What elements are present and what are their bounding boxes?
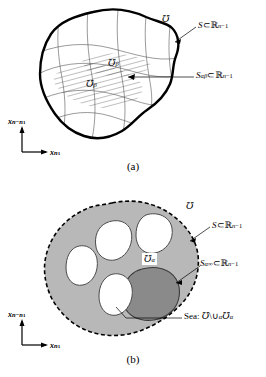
label-patch-U-beta: ℧β <box>108 58 119 68</box>
label-sea: Sea: ℧\∪α℧α <box>184 311 233 321</box>
label-island-U-alpha: ℧α <box>142 253 157 265</box>
caption-panel-a: (a) <box>0 160 266 172</box>
axes-panel-b <box>20 319 49 348</box>
caption-panel-b: (b) <box>0 353 266 365</box>
label-set-U-b: ℧ <box>186 201 193 211</box>
label-S-subset-a: S⊂ℝn−1 <box>198 20 228 30</box>
axis-label-vertical-b: xn−n1 <box>8 310 25 319</box>
axis-label-horizontal-b: xn1 <box>50 341 60 350</box>
axes-panel-a <box>20 126 49 155</box>
leader-S-b <box>190 227 210 243</box>
label-set-U-a: ℧ <box>162 14 169 24</box>
label-patch-U-alpha: ℧β <box>86 79 97 89</box>
axis-label-vertical-a: xn−n1 <box>8 117 25 126</box>
axis-label-horizontal-a: xn1 <box>50 148 60 157</box>
label-S-subset-b: S⊂ℝn−1 <box>212 220 242 230</box>
label-S-alpha-infinity: Sα∞⊂ℝn−1 <box>200 258 238 268</box>
leader-S-alpha-beta <box>128 74 194 80</box>
panel-b: ℧ S⊂ℝn−1 Sα∞⊂ℝn−1 ℧α Sea: ℧\∪α℧α xn−n1 x… <box>0 185 266 377</box>
leader-S <box>175 27 196 44</box>
panel-b-shapes <box>0 185 266 377</box>
label-S-alpha-beta: Sαβ⊂ℝn−1 <box>196 70 233 80</box>
